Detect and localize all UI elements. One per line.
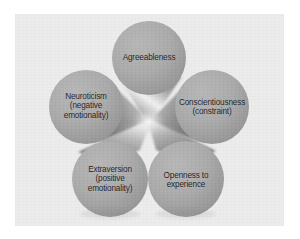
lobe-label-extraversion: Extraversion (positive emotionality) xyxy=(88,165,132,193)
cone-diagram-svg xyxy=(0,0,300,239)
cone-diagram-stage xyxy=(0,0,300,239)
lobe-label-neuroticism: Neuroticism (negative emotionality) xyxy=(64,92,108,120)
lobe-label-openness: Openness to experience xyxy=(164,171,209,190)
lobe-contact-shadows xyxy=(80,209,216,219)
lobe-label-agreeableness: Agreeableness xyxy=(123,53,176,62)
figure-container: Agreeableness Conscientiousness (constra… xyxy=(0,0,300,239)
cone-apex-core xyxy=(133,108,165,134)
lobe-label-conscientiousness: Conscientiousness (constraint) xyxy=(179,98,245,117)
